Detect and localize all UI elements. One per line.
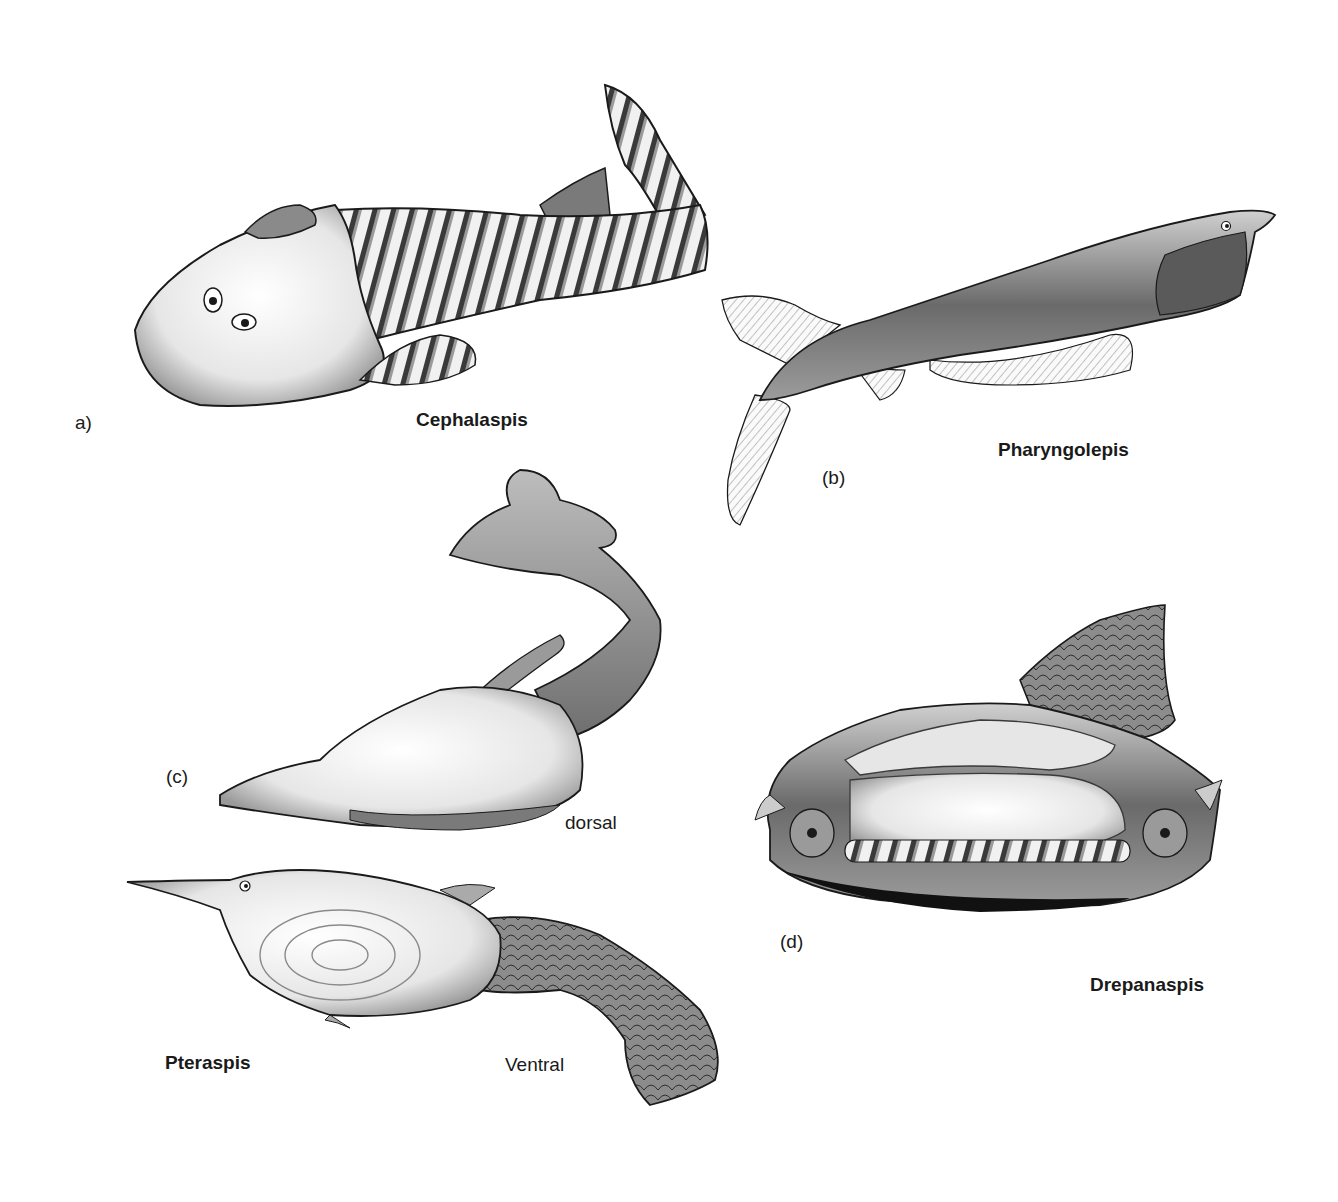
- fossil-fish-illustration-plate: a) Cephalaspis (b) Pharyngolepis (c) dor…: [0, 0, 1338, 1202]
- illustrations-layer: [0, 0, 1338, 1202]
- species-name-pteraspis: Pteraspis: [165, 1053, 251, 1072]
- panel-label-b: (b): [822, 468, 845, 487]
- panel-label-a: a): [75, 413, 92, 432]
- view-label-ventral: Ventral: [505, 1055, 564, 1074]
- panel-label-c: (c): [166, 767, 188, 786]
- pteraspis-dorsal-drawing: [220, 470, 661, 830]
- drepanaspis-drawing: [755, 605, 1222, 912]
- cephalaspis-drawing: [135, 85, 708, 406]
- species-name-cephalaspis: Cephalaspis: [416, 410, 528, 429]
- species-name-pharyngolepis: Pharyngolepis: [998, 440, 1129, 459]
- pharyngolepis-drawing: [722, 211, 1275, 525]
- panel-label-d: (d): [780, 932, 803, 951]
- species-name-drepanaspis: Drepanaspis: [1090, 975, 1204, 994]
- view-label-dorsal: dorsal: [565, 813, 617, 832]
